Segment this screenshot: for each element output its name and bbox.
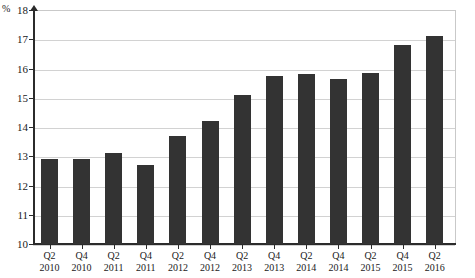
x-tick-quarter: Q4 [130, 250, 162, 262]
x-tick-label: Q22015 [355, 250, 387, 274]
bar [41, 159, 58, 244]
x-tick-mark [178, 245, 179, 249]
bar [266, 76, 283, 244]
x-tick-label: Q22013 [226, 250, 258, 274]
x-tick-label: Q22012 [162, 250, 194, 274]
bar [137, 165, 154, 244]
x-tick-quarter: Q2 [34, 250, 66, 262]
bar [298, 74, 315, 244]
x-tick-year: 2013 [226, 262, 258, 274]
x-tick-label: Q42014 [322, 250, 354, 274]
x-tick-year: 2010 [66, 262, 98, 274]
bar [105, 153, 122, 244]
x-tick-year: 2010 [34, 262, 66, 274]
x-tick-year: 2012 [194, 262, 226, 274]
x-tick-label: Q42011 [130, 250, 162, 274]
bar [73, 159, 90, 244]
x-tick-mark [435, 245, 436, 249]
bar-series [0, 0, 475, 278]
x-tick-label: Q22010 [34, 250, 66, 274]
x-tick-quarter: Q4 [258, 250, 290, 262]
bar [426, 36, 443, 244]
x-tick-mark [371, 245, 372, 249]
bar [394, 45, 411, 244]
x-tick-quarter: Q4 [322, 250, 354, 262]
x-tick-mark [274, 245, 275, 249]
x-tick-mark [306, 245, 307, 249]
x-tick-label: Q22016 [419, 250, 451, 274]
x-tick-quarter: Q4 [387, 250, 419, 262]
x-tick-year: 2014 [290, 262, 322, 274]
x-tick-label: Q22014 [290, 250, 322, 274]
x-tick-year: 2015 [387, 262, 419, 274]
x-tick-quarter: Q2 [226, 250, 258, 262]
x-tick-quarter: Q2 [98, 250, 130, 262]
x-tick-quarter: Q2 [355, 250, 387, 262]
x-tick-quarter: Q4 [194, 250, 226, 262]
x-tick-year: 2016 [419, 262, 451, 274]
x-tick-quarter: Q2 [419, 250, 451, 262]
bar-chart: % 181716151413121110 Q22010Q42010Q22011Q… [0, 0, 475, 278]
x-tick-quarter: Q4 [66, 250, 98, 262]
bar [234, 95, 251, 244]
x-tick-year: 2014 [322, 262, 354, 274]
x-tick-mark [242, 245, 243, 249]
x-tick-mark [210, 245, 211, 249]
x-tick-mark [50, 245, 51, 249]
x-tick-mark [114, 245, 115, 249]
x-tick-label: Q42010 [66, 250, 98, 274]
x-tick-year: 2015 [355, 262, 387, 274]
x-tick-year: 2011 [130, 262, 162, 274]
x-tick-label: Q42015 [387, 250, 419, 274]
x-tick-year: 2013 [258, 262, 290, 274]
bar [202, 121, 219, 244]
x-tick-label: Q22011 [98, 250, 130, 274]
x-tick-label: Q42012 [194, 250, 226, 274]
x-tick-mark [82, 245, 83, 249]
bar [362, 73, 379, 244]
x-tick-quarter: Q2 [290, 250, 322, 262]
x-tick-mark [338, 245, 339, 249]
bar [169, 136, 186, 244]
x-tick-year: 2011 [98, 262, 130, 274]
x-tick-quarter: Q2 [162, 250, 194, 262]
x-tick-mark [146, 245, 147, 249]
x-tick-year: 2012 [162, 262, 194, 274]
x-tick-label: Q42013 [258, 250, 290, 274]
x-tick-mark [403, 245, 404, 249]
bar [330, 79, 347, 244]
